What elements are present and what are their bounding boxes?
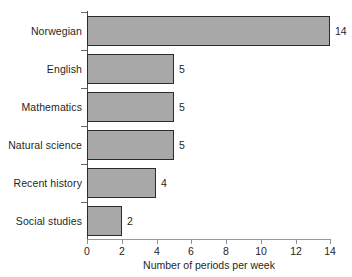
bar-norwegian xyxy=(87,16,330,46)
x-axis-tick-label-0: 0 xyxy=(84,245,90,257)
bar-value-recent-history: 4 xyxy=(161,177,167,189)
x-axis-tick-label-2: 2 xyxy=(119,245,125,257)
y-axis-label-0: Norwegian xyxy=(31,25,82,37)
x-axis-tick-label-6: 6 xyxy=(188,245,194,257)
bar-natural-science xyxy=(87,130,174,160)
x-axis-tick-2 xyxy=(122,239,123,244)
x-axis-tick-label-8: 8 xyxy=(223,245,229,257)
bar-social-studies xyxy=(87,206,122,236)
x-axis-tick-label-12: 12 xyxy=(290,245,302,257)
y-axis-tick-2 xyxy=(81,88,87,89)
x-axis-tick-0 xyxy=(87,239,88,244)
x-axis-line xyxy=(87,239,331,240)
x-axis-tick-14 xyxy=(330,239,331,244)
y-axis-label-3: Natural science xyxy=(8,139,82,151)
y-axis-tick-3 xyxy=(81,126,87,127)
x-axis-tick-4 xyxy=(157,239,158,244)
y-axis-tick-0 xyxy=(81,12,87,13)
y-axis-label-5: Social studies xyxy=(16,215,82,227)
bar-english xyxy=(87,54,174,84)
x-axis-tick-label-4: 4 xyxy=(154,245,160,257)
bar-value-mathematics: 5 xyxy=(179,101,185,113)
x-axis-tick-label-14: 14 xyxy=(324,245,336,257)
x-axis-tick-6 xyxy=(191,239,192,244)
y-axis-label-4: Recent history xyxy=(13,177,82,189)
bar-value-english: 5 xyxy=(179,63,185,75)
y-axis-label-2: Mathematics xyxy=(21,101,82,113)
y-axis-tick-1 xyxy=(81,50,87,51)
x-axis-title-text: Number of periods per week xyxy=(143,259,275,271)
bar-mathematics xyxy=(87,92,174,122)
x-axis-tick-10 xyxy=(261,239,262,244)
x-axis-tick-label-10: 10 xyxy=(255,245,267,257)
y-axis-label-1: English xyxy=(47,63,82,75)
bar-recent-history xyxy=(87,168,156,198)
x-axis-tick-8 xyxy=(226,239,227,244)
x-axis-tick-12 xyxy=(296,239,297,244)
x-axis-title: Number of periods per week xyxy=(0,259,352,271)
y-axis-tick-5 xyxy=(81,202,87,203)
bar-value-natural-science: 5 xyxy=(179,139,185,151)
bar-chart: Norwegian English Mathematics Natural sc… xyxy=(0,0,352,277)
y-axis-tick-4 xyxy=(81,164,87,165)
bar-value-social-studies: 2 xyxy=(127,215,133,227)
bar-value-norwegian: 14 xyxy=(335,25,347,37)
